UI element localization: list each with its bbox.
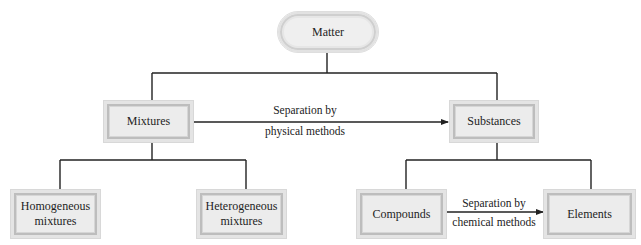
physical-separation-label-line2: physical methods [255,124,355,138]
node-compounds-label: Compounds [368,207,434,222]
node-heterogeneous-mixtures: Heterogeneous mixtures [197,190,286,238]
node-homogeneous-mixtures: Homogeneous mixtures [11,190,100,238]
node-substances-label: Substances [463,114,524,129]
node-elements: Elements [544,190,635,238]
physical-separation-label-line1: Separation by [255,103,355,117]
physical-separation-label: Separation by physical methods [255,103,355,138]
matter-classification-diagram: Matter Mixtures Substances Separation by… [0,0,641,245]
chemical-separation-label: Separation by chemical methods [447,196,541,229]
node-heterogeneous-line2: mixtures [206,214,278,229]
node-mixtures-label: Mixtures [123,114,174,129]
node-homogeneous-line2: mixtures [21,214,90,229]
node-heterogeneous-line1: Heterogeneous [206,199,278,214]
node-elements-label: Elements [563,207,616,222]
node-matter-label: Matter [312,25,344,40]
node-substances: Substances [450,101,538,142]
node-homogeneous-line1: Homogeneous [21,199,90,214]
chemical-separation-label-line1: Separation by [447,196,541,210]
chemical-separation-label-line2: chemical methods [447,215,541,229]
node-compounds: Compounds [357,190,446,238]
node-matter: Matter [278,12,378,52]
node-mixtures: Mixtures [104,101,193,142]
